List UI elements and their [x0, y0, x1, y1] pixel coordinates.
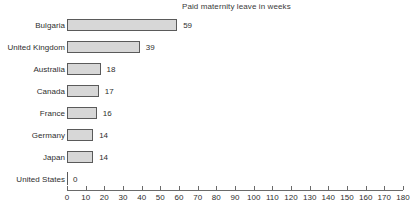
x-axis-tick [142, 186, 143, 190]
category-label: Germany [32, 129, 65, 142]
bar-value-label: 14 [99, 151, 108, 164]
plot-area: Bulgaria59United Kingdom39Australia18Can… [0, 0, 416, 216]
x-axis-tick [104, 186, 105, 190]
footnote-text [66, 207, 406, 216]
bar-value-label: 18 [107, 63, 116, 76]
bar-row: Australia18 [0, 63, 416, 85]
category-label: United States [16, 173, 65, 186]
x-axis-tick-label: 180 [391, 193, 415, 202]
bar [67, 129, 93, 141]
category-label: Japan [43, 151, 65, 164]
x-axis-tick [384, 186, 385, 190]
category-label: Canada [37, 85, 65, 98]
x-axis-tick [291, 186, 292, 190]
category-label: Bulgaria [35, 19, 65, 32]
bar-row: Germany14 [0, 129, 416, 151]
bar [67, 107, 97, 119]
bar-row: United States0 [0, 173, 416, 195]
bar-row: United Kingdom39 [0, 41, 416, 63]
x-axis-tick [254, 186, 255, 190]
x-axis-tick [160, 186, 161, 190]
category-label: France [40, 107, 65, 120]
x-axis-tick [123, 186, 124, 190]
x-axis-line [67, 190, 403, 191]
bar [67, 172, 68, 185]
bar [67, 41, 140, 53]
bar-value-label: 59 [183, 19, 192, 32]
x-axis-tick [403, 186, 404, 190]
bar [67, 85, 99, 97]
bar-row: Canada17 [0, 85, 416, 107]
x-axis-tick [310, 186, 311, 190]
bar [67, 63, 101, 75]
bar-value-label: 17 [105, 85, 114, 98]
bar [67, 19, 177, 31]
category-label: Australia [33, 63, 65, 76]
x-axis-tick [347, 186, 348, 190]
bar-value-label: 39 [146, 41, 155, 54]
bar-value-label: 16 [103, 107, 112, 120]
bar-value-label: 0 [73, 173, 78, 186]
bar-row: Bulgaria59 [0, 19, 416, 41]
x-axis-tick [198, 186, 199, 190]
x-axis-tick [328, 186, 329, 190]
x-axis-tick [235, 186, 236, 190]
x-axis-tick [86, 186, 87, 190]
x-axis-tick [366, 186, 367, 190]
category-label: United Kingdom [7, 41, 65, 54]
x-axis-tick [272, 186, 273, 190]
x-axis-tick [67, 186, 68, 190]
bar-row: Japan14 [0, 151, 416, 173]
x-axis-tick [216, 186, 217, 190]
bar-row: France16 [0, 107, 416, 129]
x-axis-tick [179, 186, 180, 190]
chart-page: Paid maternity leave in weeks Bulgaria59… [0, 0, 416, 216]
bar [67, 151, 93, 163]
bar-value-label: 14 [99, 129, 108, 142]
